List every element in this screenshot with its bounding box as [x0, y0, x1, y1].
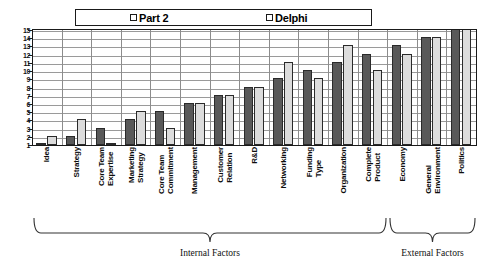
- bar-delphi: [314, 78, 323, 145]
- x-axis-label: GeneralEnvironment: [424, 147, 441, 194]
- internal-factors-caption: Internal Factors: [34, 248, 386, 258]
- x-axis-label-cell: Management: [180, 147, 210, 205]
- y-tickmark: [28, 63, 32, 64]
- x-axis-label: Strategy: [72, 147, 81, 177]
- bar-part-2: [332, 62, 341, 145]
- bar-group: [418, 30, 448, 145]
- x-axis-label-cell: R&D: [240, 147, 270, 205]
- bar-delphi: [432, 37, 441, 145]
- bar-group: [63, 30, 93, 145]
- bar-delphi: [195, 103, 204, 145]
- legend-label-part-2: Part 2: [139, 12, 168, 24]
- bar-group: [92, 30, 122, 145]
- bar-part-2: [303, 70, 312, 145]
- bar-part-2: [184, 103, 193, 145]
- bar-delphi: [284, 62, 293, 145]
- x-axis-label-cell: MarketingStrategy: [121, 147, 151, 205]
- x-axis-label-cell: Economy: [388, 147, 418, 205]
- legend-entry-delphi: Delphi: [266, 12, 307, 24]
- bar-groups: [33, 30, 476, 145]
- bar-delphi: [462, 29, 471, 145]
- bar-group: [299, 30, 329, 145]
- y-tickmark: [28, 129, 32, 130]
- x-axis-label-cell: CustomerRelation: [210, 147, 240, 205]
- bar-chart-figure: Part 2 Delphi 151413121110987654321 Idea…: [0, 0, 495, 280]
- y-tickmark: [28, 55, 32, 56]
- y-tickmark: [28, 104, 32, 105]
- y-tickmark: [28, 46, 32, 47]
- bar-group: [329, 30, 359, 145]
- legend-swatch-icon-part-2: [130, 14, 137, 21]
- factor-group-brackets: Internal Factors External Factors: [0, 214, 495, 274]
- bar-part-2: [96, 128, 105, 145]
- bar-delphi: [373, 70, 382, 145]
- bar-group: [122, 30, 152, 145]
- external-factors-bracket-icon: [390, 218, 475, 242]
- y-tickmark: [28, 30, 32, 31]
- x-axis-label: Idea: [43, 147, 52, 162]
- y-tickmark: [28, 145, 32, 146]
- bar-group: [240, 30, 270, 145]
- bar-part-2: [66, 136, 75, 145]
- bar-delphi: [136, 111, 145, 145]
- bar-group: [151, 30, 181, 145]
- plot-area-wrapper: 151413121110987654321: [17, 29, 477, 146]
- x-axis-category-labels: IdeaStrategyCore TeamExpertiseMarketingS…: [32, 147, 477, 205]
- legend-swatch-icon-delphi: [266, 14, 273, 21]
- x-axis-label: FundingType: [305, 147, 322, 177]
- bar-delphi: [106, 143, 115, 145]
- x-axis-label: Core TeamCommitment: [157, 147, 174, 194]
- legend-label-delphi: Delphi: [275, 12, 307, 24]
- x-axis-label: CompleteProduct: [365, 147, 382, 182]
- bar-group: [359, 30, 389, 145]
- bar-delphi: [225, 95, 234, 145]
- bar-part-2: [125, 119, 134, 145]
- bar-part-2: [421, 37, 430, 145]
- x-axis-label-cell: Networking: [269, 147, 299, 205]
- x-axis-label-cell: GeneralEnvironment: [418, 147, 448, 205]
- bar-delphi: [402, 54, 411, 145]
- x-axis-label-cell: CompleteProduct: [358, 147, 388, 205]
- bar-part-2: [155, 111, 164, 145]
- x-axis-label: CustomerRelation: [216, 147, 233, 183]
- bar-group: [181, 30, 211, 145]
- bar-part-2: [244, 87, 253, 146]
- bar-group: [270, 30, 300, 145]
- x-axis-label-cell: Core TeamExpertise: [91, 147, 121, 205]
- bar-group: [388, 30, 418, 145]
- x-axis-label: MarketingStrategy: [127, 147, 144, 183]
- bar-delphi: [254, 87, 263, 146]
- bar-group: [211, 30, 241, 145]
- plot-area: [32, 29, 477, 146]
- x-axis-label-cell: Core TeamCommitment: [151, 147, 181, 205]
- bar-delphi: [77, 119, 86, 145]
- x-axis-label: Politics: [458, 147, 467, 174]
- x-axis-label: R&D: [250, 147, 259, 164]
- bar-part-2: [362, 54, 371, 145]
- y-tickmark: [28, 79, 32, 80]
- y-tickmark: [28, 120, 32, 121]
- bar-part-2: [451, 29, 460, 145]
- x-axis-label: Core TeamExpertise: [98, 147, 115, 186]
- x-axis-label-cell: Organization: [329, 147, 359, 205]
- x-axis-label-cell: FundingType: [299, 147, 329, 205]
- bar-delphi: [343, 45, 352, 145]
- bar-group: [447, 30, 476, 145]
- y-tickmark: [28, 71, 32, 72]
- y-tickmark: [28, 96, 32, 97]
- x-axis-label-cell: Politics: [447, 147, 477, 205]
- bar-group: [33, 30, 63, 145]
- bracket-svg: [0, 214, 495, 274]
- bar-part-2: [36, 143, 45, 145]
- x-axis-label: Networking: [280, 147, 289, 189]
- bar-part-2: [214, 95, 223, 145]
- y-tickmark: [28, 112, 32, 113]
- bar-delphi: [47, 136, 56, 145]
- internal-factors-bracket-icon: [34, 218, 386, 242]
- x-axis-label: Organization: [339, 147, 348, 194]
- x-axis-label-cell: Strategy: [62, 147, 92, 205]
- y-tickmark: [28, 38, 32, 39]
- y-tickmark: [28, 88, 32, 89]
- legend-entry-part-2: Part 2: [130, 12, 168, 24]
- external-factors-caption: External Factors: [390, 248, 475, 258]
